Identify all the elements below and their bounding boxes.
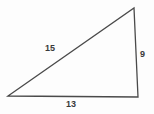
- side-label-bottom: 13: [66, 100, 76, 109]
- side-label-right: 9: [140, 50, 145, 59]
- triangle-figure: 15 9 13: [0, 0, 154, 114]
- triangle-diagram: [0, 0, 154, 114]
- triangle-outline: [8, 8, 138, 97]
- side-label-hypotenuse: 15: [45, 44, 55, 53]
